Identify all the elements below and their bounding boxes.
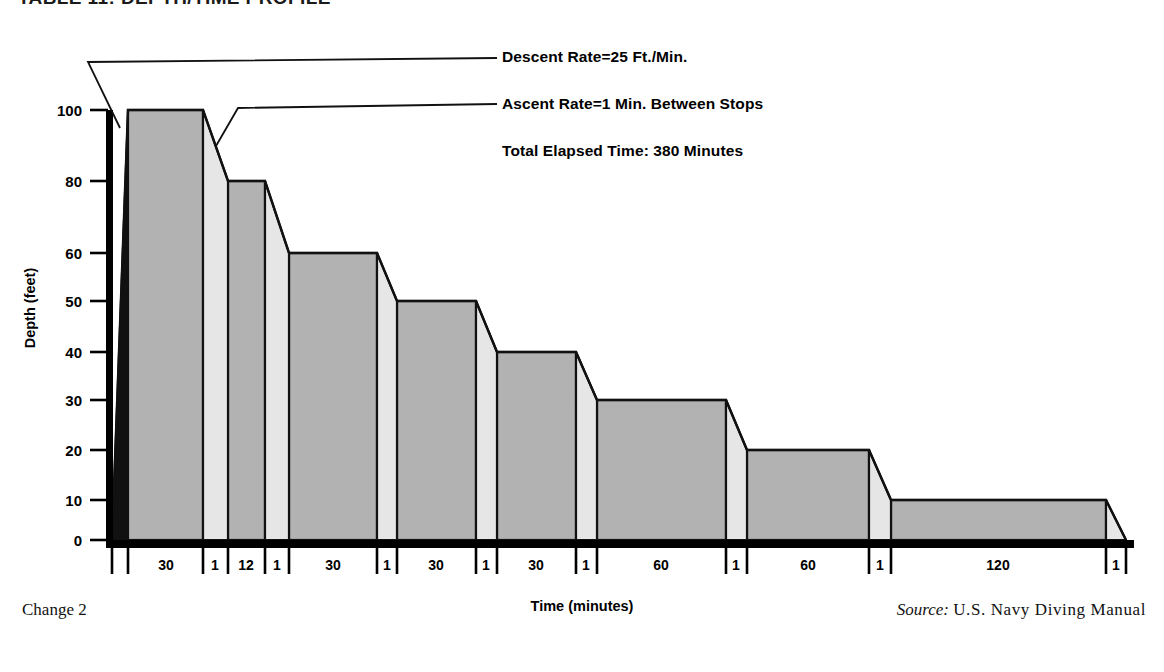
x-axis-segment-label: 30 bbox=[528, 557, 544, 573]
y-axis-tick-label: 20 bbox=[65, 442, 82, 459]
y-axis-tick-label: 50 bbox=[65, 293, 82, 310]
x-axis-segment-label: 60 bbox=[800, 557, 816, 573]
x-axis-segment-label: 1 bbox=[273, 557, 281, 573]
depth-plateau bbox=[597, 400, 726, 540]
depth-plateau bbox=[747, 450, 869, 540]
figure-root: TABLE 11: DEPTH/TIME PROFILE 10080605040… bbox=[0, 0, 1164, 672]
x-axis-segment-label: 1 bbox=[482, 557, 490, 573]
source-value: U.S. Navy Diving Manual bbox=[953, 600, 1146, 619]
y-axis: 100806050403020100 bbox=[57, 102, 113, 549]
source-label: Source: bbox=[897, 600, 949, 619]
y-axis-spine bbox=[106, 110, 113, 544]
x-axis-segment-label: 12 bbox=[238, 557, 254, 573]
annotation-ascent-rate: Ascent Rate=1 Min. Between Stops bbox=[502, 95, 922, 113]
depth-plateau bbox=[397, 301, 476, 540]
annotation-total-time: Total Elapsed Time: 380 Minutes bbox=[502, 142, 922, 160]
x-axis-segment-label: 1 bbox=[582, 557, 590, 573]
y-axis-title: Depth (feet) bbox=[22, 248, 38, 368]
x-axis-segment-label: 60 bbox=[653, 557, 669, 573]
ascent-ramp bbox=[265, 181, 289, 540]
x-axis-tick-labels: 3011213013013016016011201 bbox=[158, 557, 1120, 573]
x-axis-segment-label: 1 bbox=[732, 557, 740, 573]
y-axis-tick-label: 30 bbox=[65, 392, 82, 409]
ascent-rate-leader bbox=[216, 104, 497, 146]
y-axis-tick-label: 80 bbox=[65, 173, 82, 190]
depth-plateau bbox=[891, 500, 1106, 540]
x-axis-segment-label: 30 bbox=[325, 557, 341, 573]
y-axis-tick-label: 10 bbox=[65, 492, 82, 509]
x-axis-segment-label: 30 bbox=[158, 557, 174, 573]
x-axis-segment-label: 1 bbox=[876, 557, 884, 573]
x-axis-spine bbox=[106, 540, 1134, 548]
y-axis-tick-label: 100 bbox=[57, 102, 82, 119]
x-axis-segment-label: 120 bbox=[986, 557, 1010, 573]
depth-plateau bbox=[497, 352, 576, 540]
ascent-ramp bbox=[476, 301, 497, 540]
ascent-ramp bbox=[203, 110, 228, 540]
depth-plateau bbox=[228, 181, 265, 540]
depth-plateau bbox=[289, 253, 377, 540]
y-axis-tick-label: 0 bbox=[74, 532, 82, 549]
x-axis-segment-label: 1 bbox=[211, 557, 219, 573]
x-axis-segment-label: 1 bbox=[1112, 557, 1120, 573]
x-axis-segment-label: 30 bbox=[428, 557, 444, 573]
annotation-descent-rate: Descent Rate=25 Ft./Min. bbox=[502, 48, 922, 66]
x-axis bbox=[106, 540, 1134, 574]
ascent-ramp bbox=[726, 400, 747, 540]
y-axis-tick-label: 60 bbox=[65, 245, 82, 262]
ascent-ramp bbox=[576, 352, 597, 540]
annotation-block: Descent Rate=25 Ft./Min. Ascent Rate=1 M… bbox=[502, 48, 922, 160]
depth-plateau bbox=[128, 110, 203, 540]
y-axis-tick-label: 40 bbox=[65, 344, 82, 361]
source-attribution: Source: U.S. Navy Diving Manual bbox=[897, 600, 1146, 620]
change-note: Change 2 bbox=[22, 600, 87, 620]
x-axis-segment-label: 1 bbox=[383, 557, 391, 573]
